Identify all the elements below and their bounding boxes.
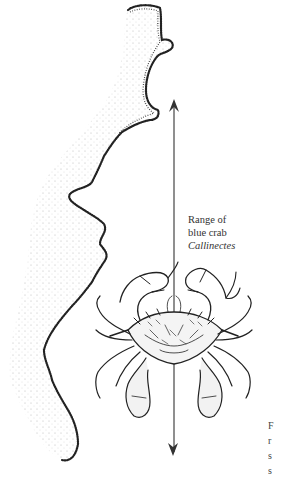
caption-fragment: F — [268, 418, 288, 433]
range-arrow — [168, 99, 179, 456]
range-label: Range of blue crab Callinectes — [188, 213, 235, 252]
cut-off-caption: F r s s — [268, 418, 288, 478]
caption-fragment: s — [268, 448, 288, 463]
range-label-line1: Range of — [188, 213, 235, 226]
range-label-genus: Callinectes — [188, 239, 235, 252]
caption-fragment: s — [268, 463, 288, 478]
range-label-line2: blue crab — [188, 226, 235, 239]
caption-fragment: r — [268, 433, 288, 448]
